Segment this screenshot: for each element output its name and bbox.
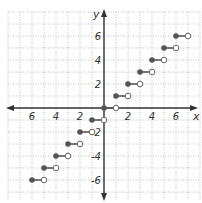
y-tick-label: 2	[95, 79, 101, 90]
closed-dot	[41, 165, 47, 171]
open-dot	[125, 93, 131, 99]
x-tick-label: 6	[173, 111, 179, 122]
y-axis-label: y	[92, 8, 100, 21]
open-dot	[89, 129, 95, 135]
y-tick-label: 4	[95, 55, 101, 66]
closed-dot	[113, 93, 119, 99]
closed-dot	[65, 141, 71, 147]
step-segment	[125, 81, 143, 87]
open-dot	[137, 81, 143, 87]
closed-dot	[173, 33, 179, 39]
open-dot	[77, 141, 83, 147]
open-dot	[41, 177, 47, 183]
open-dot	[185, 33, 191, 39]
open-dot	[161, 57, 167, 63]
closed-dot	[161, 45, 167, 51]
closed-dot	[137, 69, 143, 75]
closed-dot	[53, 153, 59, 159]
closed-dot	[149, 57, 155, 63]
x-tick-label: 2	[125, 111, 131, 122]
open-dot	[101, 117, 107, 123]
open-dot	[173, 45, 179, 51]
closed-dot	[125, 81, 131, 87]
x-axis-label: x	[192, 110, 200, 123]
x-tick-label: 6	[29, 111, 35, 122]
step-segment	[53, 153, 71, 159]
step-segment	[65, 141, 83, 147]
closed-dot	[29, 177, 35, 183]
closed-dot	[101, 105, 107, 111]
y-tick-label: 6	[95, 31, 101, 42]
step-segment	[149, 57, 167, 63]
x-tick-label: 4	[53, 111, 59, 122]
open-dot	[149, 69, 155, 75]
y-tick-label: -4	[91, 151, 101, 162]
open-dot	[113, 105, 119, 111]
x-tick-label: 4	[149, 111, 155, 122]
closed-dot	[89, 117, 95, 123]
step-segment	[29, 177, 47, 183]
step-segment	[41, 165, 59, 171]
step-segment	[113, 93, 131, 99]
step-segment	[101, 105, 119, 111]
step-segment	[89, 117, 107, 123]
step-segment	[77, 129, 95, 135]
step-segment	[173, 33, 191, 39]
y-axis-down-arrow-icon	[101, 193, 107, 201]
step-segment	[137, 69, 155, 75]
open-dot	[65, 153, 71, 159]
y-axis-up-arrow-icon	[101, 9, 107, 17]
open-dot	[53, 165, 59, 171]
x-tick-label: 2	[77, 111, 83, 122]
closed-dot	[77, 129, 83, 135]
step-function-chart: xy 642246642-2-4-6	[0, 0, 202, 203]
y-tick-label: -6	[91, 175, 101, 186]
x-axis-left-arrow-icon	[6, 105, 14, 111]
step-segment	[161, 45, 179, 51]
axes: xy	[6, 8, 200, 201]
